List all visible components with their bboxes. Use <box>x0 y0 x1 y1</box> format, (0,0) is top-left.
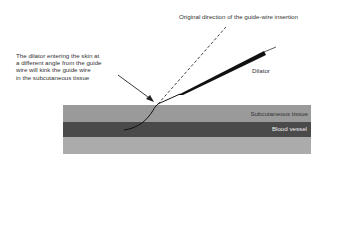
annotation-line: in the subcutaneous tissue <box>16 74 136 81</box>
subcutaneous-tissue-label: Subcutaneous tissue <box>251 110 308 117</box>
annotation-line: wire will kink the guide wire <box>16 66 136 73</box>
guide-wire-tip <box>264 47 276 52</box>
annotation-line: The dilator entering the skin at <box>16 52 136 59</box>
original-direction-dashed-line <box>158 27 226 104</box>
annotation-line: a different angle from the guide <box>16 59 136 66</box>
kink-annotation: The dilator entering the skin at a diffe… <box>16 52 136 81</box>
dilator-label: Dilator <box>252 67 270 74</box>
original-direction-label: Original direction of the guide-wire ins… <box>179 13 298 20</box>
blood-vessel-label: Blood vessel <box>272 125 307 132</box>
